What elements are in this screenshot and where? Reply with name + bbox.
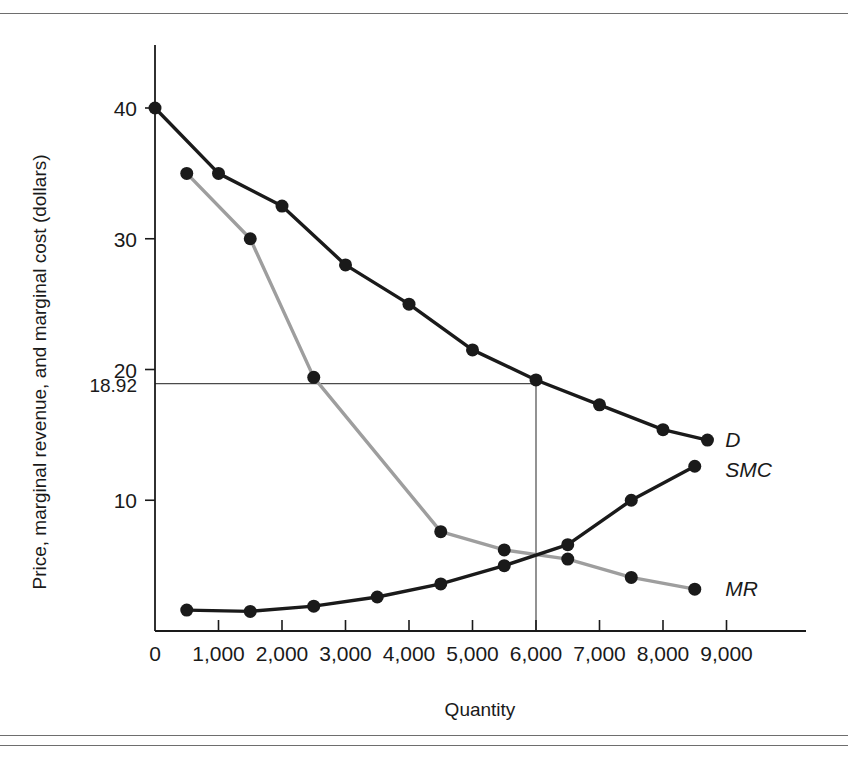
x-axis-tick-label: 1,000 xyxy=(192,642,245,665)
data-point xyxy=(561,553,574,566)
equilibrium-price-label: 18.92 xyxy=(89,375,137,396)
data-point xyxy=(434,525,447,538)
guide-lines-group xyxy=(155,384,536,631)
series-line-d xyxy=(155,108,707,440)
x-axis-ticks-group xyxy=(219,620,727,631)
x-axis-tick-label: 3,000 xyxy=(319,642,372,665)
x-axis-tick-label: 9,000 xyxy=(700,642,753,665)
economics-line-chart: 10203040 01,0002,0003,0004,0005,0006,000… xyxy=(0,0,848,763)
data-point xyxy=(307,600,320,613)
x-axis-tick-label: 4,000 xyxy=(383,642,436,665)
data-point xyxy=(530,373,543,386)
x-axis-tick-labels-group: 01,0002,0003,0004,0005,0006,0007,0008,00… xyxy=(149,642,753,665)
data-point xyxy=(434,577,447,590)
annotations-group: 18.92 xyxy=(89,375,137,396)
series-mr xyxy=(180,167,701,596)
figure-root: 10203040 01,0002,0003,0004,0005,0006,000… xyxy=(0,0,848,763)
data-point xyxy=(307,371,320,384)
data-point xyxy=(149,102,162,115)
curve-label-smc: SMC xyxy=(725,458,773,481)
x-axis-tick-label: 6,000 xyxy=(510,642,563,665)
data-point xyxy=(593,398,606,411)
curve-label-d: D xyxy=(725,428,740,451)
x-axis-tick-label: 0 xyxy=(149,642,161,665)
curve-label-mr: MR xyxy=(725,577,758,600)
data-point xyxy=(180,604,193,617)
x-axis-tick-label: 8,000 xyxy=(637,642,690,665)
y-axis-tick-label: 40 xyxy=(114,97,137,120)
data-point xyxy=(625,571,638,584)
y-axis-tick-label: 10 xyxy=(114,489,137,512)
data-point xyxy=(466,343,479,356)
data-point xyxy=(625,494,638,507)
data-point xyxy=(180,167,193,180)
data-point xyxy=(688,583,701,596)
data-point xyxy=(701,434,714,447)
figure-bottom-rule-inner xyxy=(0,745,848,746)
data-point xyxy=(657,423,670,436)
data-point xyxy=(244,605,257,618)
data-point xyxy=(371,591,384,604)
y-axis-tick-label: 30 xyxy=(114,228,137,251)
curve-labels-group: DSMCMR xyxy=(725,428,773,600)
x-axis-title: Quantity xyxy=(445,699,516,720)
data-point xyxy=(212,167,225,180)
y-axis-ticks-group xyxy=(145,108,155,500)
data-point xyxy=(244,232,257,245)
data-point xyxy=(688,460,701,473)
data-point xyxy=(498,543,511,556)
series-d xyxy=(149,102,714,447)
figure-bottom-rule-outer xyxy=(0,735,848,736)
data-point xyxy=(276,200,289,213)
data-point xyxy=(498,559,511,572)
y-axis-tick-labels-group: 10203040 xyxy=(114,97,137,512)
data-point xyxy=(403,298,416,311)
series-smc xyxy=(180,460,701,618)
x-axis-tick-label: 2,000 xyxy=(256,642,309,665)
x-axis-tick-label: 5,000 xyxy=(446,642,499,665)
data-point xyxy=(561,538,574,551)
data-series-group xyxy=(149,102,714,618)
data-point xyxy=(339,258,352,271)
y-axis-title: Price, marginal revenue, and marginal co… xyxy=(29,154,50,589)
x-axis-tick-label: 7,000 xyxy=(573,642,626,665)
